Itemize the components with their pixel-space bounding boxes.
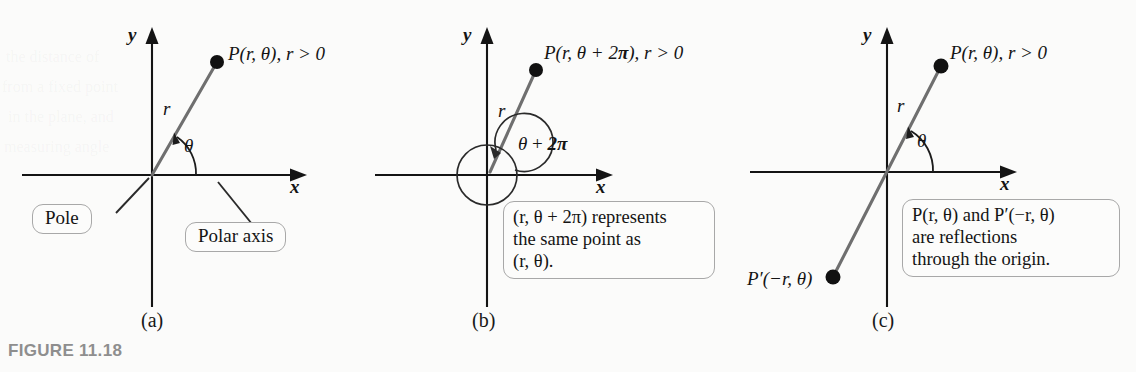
- theta-label: θ: [184, 135, 193, 157]
- y-axis-arrowhead: [881, 27, 894, 44]
- callout-pole: Pole: [32, 204, 92, 234]
- callout-line: (r, θ).: [513, 250, 705, 272]
- radius-ray: [152, 62, 217, 175]
- callout-line: are reflections: [912, 226, 1110, 248]
- panel-a: y x r θ P(r, θ), r > 0 Pole Polar axis (…: [0, 0, 370, 340]
- figure-caption: FIGURE 11.18: [8, 341, 122, 361]
- callout-line: through the origin.: [912, 248, 1110, 270]
- figure-container: the distance of from a fixed point in th…: [0, 0, 1136, 372]
- callout-line: (r, θ + 2π) represents: [513, 206, 705, 228]
- pole-leader-line: [116, 178, 149, 213]
- radius-label: r: [897, 95, 904, 117]
- point-P: [529, 63, 543, 77]
- point-P-label: P(r, θ), r > 0: [950, 42, 1047, 64]
- point-P-label: P(r, θ), r > 0: [228, 43, 325, 65]
- theta-label: θ: [917, 130, 926, 152]
- two-pi-label: 2π: [548, 133, 568, 154]
- point-P-label-lead: P(r, θ + 2: [544, 42, 618, 63]
- polar-axis-leader-line: [218, 182, 252, 224]
- y-axis-label: y: [463, 24, 471, 46]
- point-P: [934, 59, 949, 74]
- callout-line: P(r, θ) and P′(−r, θ): [912, 204, 1110, 226]
- radius-ray: [490, 70, 536, 172]
- theta-plus-2pi-label: θ + 2π: [518, 133, 567, 155]
- x-axis-label: x: [1000, 173, 1010, 195]
- callout-same-point: (r, θ + 2π) represents the same point as…: [503, 201, 715, 279]
- callout-line: the same point as: [513, 228, 705, 250]
- point-P-label: P(r, θ + 2π), r > 0: [544, 42, 683, 64]
- y-axis-arrowhead: [481, 27, 494, 44]
- point-P-prime: [826, 270, 841, 285]
- point-P-prime-label: P′(−r, θ): [747, 268, 812, 290]
- plus-sign: +: [532, 133, 543, 154]
- y-axis-label: y: [863, 24, 871, 46]
- x-axis-label: x: [290, 176, 300, 198]
- callout-reflection: P(r, θ) and P′(−r, θ) are reflections th…: [902, 199, 1120, 277]
- panel-letter-c: (c): [872, 309, 894, 333]
- panel-letter-b: (b): [472, 309, 495, 333]
- point-P-label-tail: ), r > 0: [628, 42, 683, 63]
- panel-c: y x r θ P(r, θ), r > 0 P′(−r, θ) P(r, θ)…: [745, 0, 1136, 340]
- theta-label: θ: [518, 133, 527, 154]
- radius-label: r: [163, 98, 170, 120]
- y-axis-arrowhead: [146, 27, 159, 44]
- x-axis-label: x: [596, 176, 606, 198]
- pi-symbol: π: [618, 42, 628, 63]
- panel-b: y x r P(r, θ + 2π), r > 0 θ + 2π (r, θ +…: [370, 0, 745, 340]
- point-P: [210, 55, 224, 69]
- y-axis-label: y: [128, 24, 136, 46]
- radius-label: r: [498, 100, 505, 122]
- panel-letter-a: (a): [141, 309, 163, 333]
- callout-polar-axis: Polar axis: [185, 222, 286, 252]
